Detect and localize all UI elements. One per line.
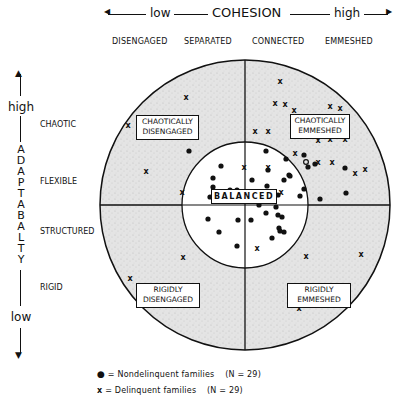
delinquent-marker: x bbox=[143, 167, 149, 176]
legend-label: = Nondelinquent families bbox=[108, 370, 215, 379]
nondelinquent-marker bbox=[205, 216, 210, 221]
legend-count: (N = 29) bbox=[207, 386, 243, 395]
region-label-line: EMMESHED bbox=[291, 126, 349, 136]
region-rigidly-emmeshed: RIGIDLY EMMESHED bbox=[287, 283, 351, 308]
nondelinquent-marker bbox=[283, 156, 288, 161]
nondelinquent-marker bbox=[277, 228, 282, 233]
legend-label: = Delinquent families bbox=[105, 386, 196, 395]
nondelinquent-marker bbox=[248, 217, 253, 222]
delinquent-marker: x bbox=[303, 252, 309, 261]
region-chaotically-disengaged: CHAOTICALLY DISENGAGED bbox=[136, 115, 199, 140]
nondelinquent-marker bbox=[264, 183, 269, 188]
nondelinquent-marker bbox=[305, 164, 310, 169]
nondelinquent-marker bbox=[210, 175, 215, 180]
delinquent-marker: x bbox=[180, 253, 186, 262]
nondelinquent-marker bbox=[343, 190, 348, 195]
region-label-line: RIGIDLY bbox=[137, 285, 199, 295]
region-label-line: CHAOTICALLY bbox=[137, 117, 198, 127]
delinquent-marker: x bbox=[292, 149, 298, 158]
nondelinquent-marker bbox=[281, 177, 286, 182]
delinquent-marker: x bbox=[265, 163, 271, 172]
delinquent-marker: x bbox=[183, 93, 189, 102]
nondelinquent-marker bbox=[273, 204, 278, 209]
nondelinquent-marker bbox=[275, 212, 280, 217]
nondelinquent-marker bbox=[218, 163, 223, 168]
delinquent-marker: x bbox=[315, 158, 321, 167]
delinquent-marker: x bbox=[241, 163, 247, 172]
region-label-line: CHAOTICALLY bbox=[291, 116, 349, 126]
delinquent-marker: x bbox=[362, 165, 368, 174]
region-balanced: BALANCED bbox=[211, 189, 277, 204]
nondelinquent-marker bbox=[342, 165, 347, 170]
nondelinquent-marker bbox=[263, 210, 268, 215]
delinquent-marker: x bbox=[358, 250, 364, 259]
nondelinquent-marker bbox=[297, 193, 302, 198]
nondelinquent-marker bbox=[234, 243, 239, 248]
delinquent-marker: x bbox=[125, 121, 131, 130]
legend-count: (N = 29) bbox=[225, 370, 261, 379]
delinquent-marker: x bbox=[329, 158, 335, 167]
delinquent-marker: x bbox=[277, 77, 283, 86]
nondelinquent-marker bbox=[216, 229, 221, 234]
nondelinquent-marker bbox=[301, 152, 306, 157]
circumplex-diagram: xxxxxxxxxxxxxxxxxxxxxxxxxxxxxxx bbox=[0, 0, 395, 405]
legend-nondelinquent: ● = Nondelinquent families (N = 29) bbox=[97, 369, 261, 379]
dot-icon: ● bbox=[97, 369, 105, 379]
delinquent-marker: x bbox=[254, 244, 260, 253]
delinquent-marker: x bbox=[337, 104, 343, 113]
nondelinquent-marker bbox=[235, 217, 240, 222]
delinquent-marker: x bbox=[252, 127, 258, 136]
region-label-line: EMMESHED bbox=[288, 295, 350, 305]
nondelinquent-marker bbox=[249, 177, 254, 182]
nondelinquent-marker bbox=[301, 186, 306, 191]
nondelinquent-marker bbox=[317, 196, 322, 201]
delinquent-marker: x bbox=[127, 274, 133, 283]
legend-delinquent: x = Delinquent families (N = 29) bbox=[97, 386, 243, 395]
nondelinquent-marker bbox=[287, 173, 292, 178]
region-label-line: DISENGAGED bbox=[137, 127, 198, 137]
region-label-line: RIGIDLY bbox=[288, 285, 350, 295]
nondelinquent-marker bbox=[186, 148, 191, 153]
delinquent-marker: x bbox=[179, 188, 185, 197]
delinquent-marker: x bbox=[327, 102, 333, 111]
delinquent-marker: x bbox=[352, 169, 358, 178]
cross-icon: x bbox=[97, 386, 102, 395]
delinquent-marker: x bbox=[265, 127, 271, 136]
region-rigidly-disengaged: RIGIDLY DISENGAGED bbox=[136, 283, 200, 308]
region-label-line: DISENGAGED bbox=[137, 295, 199, 305]
delinquent-marker: x bbox=[282, 100, 288, 109]
region-chaotically-emmeshed: CHAOTICALLY EMMESHED bbox=[290, 114, 350, 139]
nondelinquent-marker bbox=[269, 235, 274, 240]
delinquent-marker: x bbox=[278, 188, 284, 197]
nondelinquent-marker bbox=[263, 148, 268, 153]
delinquent-marker: x bbox=[272, 99, 278, 108]
